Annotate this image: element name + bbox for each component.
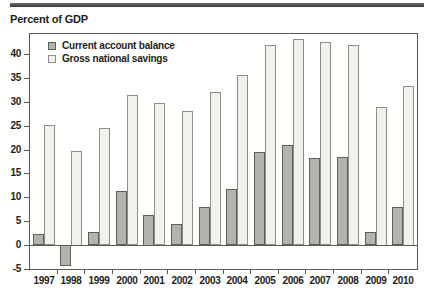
bar-current-account-balance bbox=[171, 224, 182, 245]
y-axis-tick bbox=[24, 245, 29, 246]
bar-current-account-balance bbox=[392, 207, 403, 245]
legend-swatch-current-account bbox=[48, 42, 56, 50]
legend-item-gross-savings: Gross national savings bbox=[48, 52, 175, 65]
x-axis-label: 2004 bbox=[222, 275, 252, 286]
chart-title: Percent of GDP bbox=[10, 13, 88, 25]
bar-current-account-balance bbox=[337, 157, 348, 245]
y-axis-tick bbox=[24, 102, 29, 103]
legend: Current account balance Gross national s… bbox=[48, 39, 175, 65]
bar-gross-national-savings bbox=[403, 86, 414, 246]
plot-area: Current account balance Gross national s… bbox=[29, 33, 418, 270]
x-axis-tick bbox=[140, 270, 141, 274]
x-axis-label: 2010 bbox=[388, 275, 418, 286]
y-axis-label: 10 bbox=[10, 191, 21, 202]
bar-current-account-balance bbox=[254, 152, 265, 245]
bar-gross-national-savings bbox=[71, 151, 82, 246]
x-axis-label: 2000 bbox=[112, 275, 142, 286]
x-axis-label: 1997 bbox=[29, 275, 59, 286]
bar-current-account-balance bbox=[226, 189, 237, 245]
y-axis-tick bbox=[24, 78, 29, 79]
bar-gross-national-savings bbox=[348, 45, 359, 245]
y-axis-label: 5 bbox=[16, 215, 21, 226]
x-axis-label: 2008 bbox=[333, 275, 363, 286]
y-axis: -50510152025303540 bbox=[0, 33, 29, 270]
bar-gross-national-savings bbox=[154, 103, 165, 245]
bar-gross-national-savings bbox=[182, 111, 193, 245]
x-axis-tick bbox=[57, 270, 58, 274]
x-axis-tick bbox=[195, 270, 196, 274]
y-axis-label: 15 bbox=[10, 167, 21, 178]
zero-axis-line bbox=[30, 245, 417, 246]
chart-figure: Percent of GDP Current account balance G… bbox=[0, 0, 429, 298]
bar-current-account-balance bbox=[199, 207, 210, 245]
x-axis-tick bbox=[112, 270, 113, 274]
bar-current-account-balance bbox=[33, 234, 44, 245]
bar-gross-national-savings bbox=[127, 95, 138, 245]
bar-current-account-balance bbox=[116, 191, 127, 245]
x-axis-tick bbox=[250, 270, 251, 274]
bar-gross-national-savings bbox=[265, 45, 276, 245]
x-axis: 1997199819992000200120022003200420052006… bbox=[29, 270, 418, 292]
y-axis-tick bbox=[24, 126, 29, 127]
y-axis-label: 40 bbox=[10, 48, 21, 59]
bar-current-account-balance bbox=[282, 145, 293, 245]
bar-gross-national-savings bbox=[376, 107, 387, 246]
y-axis-label: 0 bbox=[16, 239, 21, 250]
bar-current-account-balance bbox=[143, 215, 154, 246]
y-axis-label: 20 bbox=[10, 144, 21, 155]
x-axis-tick bbox=[388, 270, 389, 274]
bar-gross-national-savings bbox=[44, 125, 55, 245]
top-rule bbox=[10, 3, 424, 7]
y-axis-tick bbox=[24, 197, 29, 198]
bar-current-account-balance bbox=[309, 158, 320, 245]
x-axis-tick bbox=[361, 270, 362, 274]
x-axis-label: 2009 bbox=[361, 275, 391, 286]
x-axis-tick bbox=[84, 270, 85, 274]
bar-current-account-balance bbox=[88, 232, 99, 245]
x-axis-tick bbox=[333, 270, 334, 274]
y-axis-tick bbox=[24, 173, 29, 174]
x-axis-label: 2002 bbox=[167, 275, 197, 286]
y-axis-tick bbox=[24, 150, 29, 151]
x-axis-tick bbox=[305, 270, 306, 274]
x-axis-tick bbox=[167, 270, 168, 274]
bar-gross-national-savings bbox=[293, 39, 304, 245]
y-axis-label: 25 bbox=[10, 120, 21, 131]
x-axis-label: 2001 bbox=[139, 275, 169, 286]
x-axis-label: 2005 bbox=[250, 275, 280, 286]
legend-label-current-account: Current account balance bbox=[62, 40, 175, 51]
bar-gross-national-savings bbox=[320, 42, 331, 245]
bar-current-account-balance bbox=[365, 232, 376, 245]
x-axis-label: 2003 bbox=[195, 275, 225, 286]
y-axis-tick bbox=[24, 54, 29, 55]
legend-swatch-gross-savings bbox=[48, 55, 56, 63]
bar-gross-national-savings bbox=[210, 92, 221, 245]
x-axis-label: 2007 bbox=[305, 275, 335, 286]
bar-gross-national-savings bbox=[99, 128, 110, 245]
bar-gross-national-savings bbox=[237, 75, 248, 245]
y-axis-label: 35 bbox=[10, 72, 21, 83]
x-axis-label: 1999 bbox=[84, 275, 114, 286]
y-axis-label: -5 bbox=[13, 263, 21, 274]
x-axis-tick bbox=[278, 270, 279, 274]
bar-current-account-balance bbox=[60, 245, 71, 266]
y-axis-tick bbox=[24, 221, 29, 222]
x-axis-label: 2006 bbox=[278, 275, 308, 286]
legend-label-gross-savings: Gross national savings bbox=[62, 53, 168, 64]
y-axis-label: 30 bbox=[10, 96, 21, 107]
legend-item-current-account: Current account balance bbox=[48, 39, 175, 52]
x-axis-tick bbox=[223, 270, 224, 274]
x-axis-label: 1998 bbox=[56, 275, 86, 286]
